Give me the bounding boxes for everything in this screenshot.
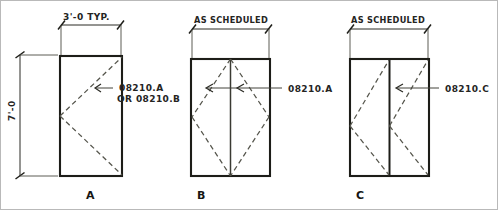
panel-c-leader [396,84,439,92]
panel-b-width-dimension: AS SCHEDULED [189,15,272,59]
panel-a-letter: A [86,189,95,202]
panel-a-door-leaf [60,56,122,176]
panel-b: AS SCHEDULED 08210.A B [189,15,333,202]
panel-b-letter: B [197,189,205,202]
panel-c-letter: C [356,189,364,202]
panel-a-width-dimension: 3'-0 TYP. [58,12,124,55]
panel-c: AS SCHEDULED 08210.C C [347,15,489,202]
panel-a-height-label: 7'-0 [7,100,17,121]
panel-a: 3'-0 TYP. 7'-0 0 [7,12,180,202]
panel-b-width-label: AS SCHEDULED [194,15,268,25]
panel-a-leader [95,84,113,92]
panel-c-width-label: AS SCHEDULED [351,15,425,25]
panel-a-annotation-line2: OR 08210.B [117,94,180,104]
panel-a-swing-lines [60,57,122,175]
panel-a-annotation-line1: 08210.A [119,83,164,93]
door-elevation-sheet: 3'-0 TYP. 7'-0 0 [0,0,498,210]
panel-a-width-label: 3'-0 TYP. [63,12,110,22]
panel-c-width-dimension: AS SCHEDULED [347,15,431,59]
panel-c-annotation-line1: 08210.C [445,84,489,94]
panel-b-annotation-line1: 08210.A [288,84,333,94]
panel-a-height-dimension: 7'-0 [7,52,58,180]
